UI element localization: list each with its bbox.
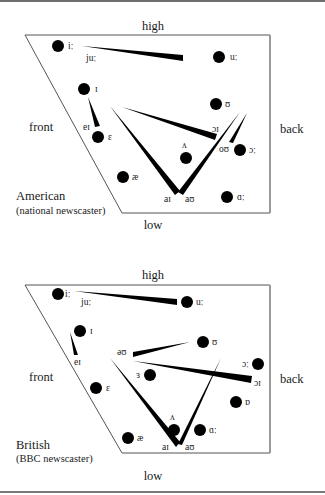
american-diphthong-label-oi: ɔɪ bbox=[212, 124, 219, 134]
american-vowel-dot-upsilon bbox=[210, 98, 222, 110]
american-vowel-dot-wedge bbox=[180, 152, 192, 164]
british-vowel-dot-u-long bbox=[181, 296, 193, 308]
american-vowel-dot-epsilon bbox=[92, 131, 104, 143]
american-symbol-u-long: uː bbox=[230, 52, 237, 62]
british-vowel-dot-a-long bbox=[194, 424, 206, 436]
british-symbol-upsilon: ʊ bbox=[212, 337, 217, 347]
british-vowel-dot-upsilon bbox=[197, 336, 209, 348]
british-symbol-wedge: ʌ bbox=[170, 412, 175, 422]
american-axis-back: back bbox=[280, 122, 304, 136]
british-caption-title: British bbox=[16, 438, 51, 452]
british-diphthong-label-ai: aɪ bbox=[162, 442, 169, 452]
american-vowel-chart: iː uː ɪ ʊ ɛ ʌ ɔː æ ɑː juː eɪ ɔɪ oʊ aɪ aʊ… bbox=[16, 19, 304, 232]
british-axis-front: front bbox=[29, 370, 54, 384]
british-vowel-dot-i-long bbox=[52, 288, 64, 300]
british-diphthong-label-oi: ɔɪ bbox=[254, 378, 261, 388]
british-vowel-dot-turned-a bbox=[230, 396, 242, 408]
british-diphthong-label-au: aʊ bbox=[185, 442, 194, 452]
british-symbol-a-long: ɑː bbox=[209, 425, 217, 435]
british-vowel-dot-epsilon bbox=[90, 382, 102, 394]
american-symbol-epsilon: ɛ bbox=[108, 132, 112, 142]
british-symbol-open-o-long: ɔː bbox=[242, 359, 249, 369]
american-diphthong-label-ju: juː bbox=[85, 53, 96, 63]
american-symbol-ash: æ bbox=[132, 172, 139, 182]
american-diphthong-label-au: aʊ bbox=[185, 194, 194, 204]
american-axis-low: low bbox=[144, 218, 163, 232]
american-diphthong-ju-wedge bbox=[82, 46, 183, 61]
american-vowel-dot-short-i bbox=[78, 83, 90, 95]
american-symbol-upsilon: ʊ bbox=[225, 99, 230, 109]
american-vowel-dot-u-long bbox=[213, 51, 225, 63]
american-diphthong-ou-wedge bbox=[229, 113, 247, 143]
british-axis-back: back bbox=[280, 372, 304, 386]
british-symbol-reversed-epsilon: ɜ bbox=[136, 370, 140, 380]
american-vowel-dot-ash bbox=[117, 171, 129, 183]
american-diphthong-oi-wedge bbox=[122, 107, 217, 140]
british-vowel-dot-wedge bbox=[168, 424, 180, 436]
american-symbol-a-long: ɑː bbox=[237, 192, 245, 202]
british-diphthong-label-ju: juː bbox=[80, 297, 91, 307]
american-diphthong-label-ai: aɪ bbox=[164, 194, 171, 204]
american-symbol-short-i: ɪ bbox=[95, 84, 98, 94]
american-symbol-i-long: iː bbox=[68, 41, 73, 51]
american-symbol-wedge: ʌ bbox=[182, 140, 187, 150]
british-symbol-epsilon: ɛ bbox=[106, 383, 110, 393]
american-diphthong-label-ou: oʊ bbox=[219, 144, 229, 154]
british-axis-low: low bbox=[144, 469, 163, 483]
british-symbol-ash: æ bbox=[137, 433, 144, 443]
vowel-chart-figure: iː uː ɪ ʊ ɛ ʌ ɔː æ ɑː juː eɪ ɔɪ oʊ aɪ aʊ… bbox=[0, 0, 325, 495]
british-vowel-chart: iː uː ɪ ʊ ɔː ɜ ɛ ɒ ʌ ɑː æ juː eɪ əʊ ɔɪ a… bbox=[16, 268, 304, 483]
british-axis-high: high bbox=[142, 268, 165, 282]
british-vowel-dot-reversed-epsilon bbox=[144, 369, 156, 381]
american-vowel-dot-i-long bbox=[52, 40, 64, 52]
british-caption-subtitle: (BBC newscaster) bbox=[16, 453, 93, 465]
american-axis-high: high bbox=[142, 19, 165, 33]
british-vowel-trapezoid bbox=[25, 285, 270, 453]
british-diphthong-label-ei: eɪ bbox=[74, 357, 81, 367]
british-vowel-dot-ash bbox=[122, 432, 134, 444]
british-symbol-turned-a: ɒ bbox=[245, 397, 250, 407]
british-symbol-short-i: ɪ bbox=[90, 326, 93, 336]
american-caption-subtitle: (national newscaster) bbox=[16, 205, 106, 217]
british-symbol-u-long: uː bbox=[196, 297, 203, 307]
american-symbol-open-o-long: ɔː bbox=[249, 145, 256, 155]
american-diphthong-label-ei: eɪ bbox=[83, 122, 90, 132]
british-diphthong-ou-wedge bbox=[133, 342, 190, 357]
british-vowel-dot-open-o-long bbox=[252, 358, 264, 370]
american-caption-title: American bbox=[16, 189, 66, 203]
british-symbol-i-long: iː bbox=[65, 289, 70, 299]
american-axis-front: front bbox=[29, 120, 54, 134]
british-vowel-dot-short-i bbox=[74, 325, 86, 337]
british-diphthong-label-ou: əʊ bbox=[117, 347, 126, 357]
american-vowel-dot-a-long bbox=[221, 191, 233, 203]
american-vowel-dot-open-o-long bbox=[234, 144, 246, 156]
